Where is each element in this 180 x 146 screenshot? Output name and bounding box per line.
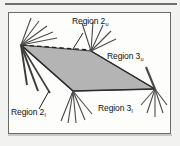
label-region-2-lower-subscript: l <box>44 112 45 118</box>
label-region-2-lower-base: Region 2 <box>11 107 44 117</box>
label-region-2-upper-subscript: u <box>105 21 108 27</box>
label-region-3-upper: Region 3u <box>107 52 144 61</box>
top-horizontal-rule <box>5 3 177 5</box>
figure-root: Region 2u Region 3u Region 3l Region 2l <box>0 0 180 146</box>
top-right-vertex-fan <box>82 22 116 51</box>
right-vertex-fan <box>141 67 167 117</box>
label-region-3-upper-subscript: u <box>140 56 143 62</box>
label-region-2-upper-base: Region 2 <box>72 16 105 26</box>
bottom-mid-vertex-fan <box>61 91 92 123</box>
label-region-3-lower: Region 3l <box>98 104 133 113</box>
label-region-3-upper-base: Region 3 <box>107 51 140 61</box>
label-region-3-lower-base: Region 3 <box>98 103 131 113</box>
figure-frame: Region 2u Region 3u Region 3l Region 2l <box>8 12 171 134</box>
label-region-2-lower: Region 2l <box>11 108 46 117</box>
leader-line-region-2-upper <box>73 33 83 49</box>
left-vertex-upper-fan <box>21 18 57 45</box>
label-region-3-lower-subscript: l <box>131 108 132 114</box>
label-region-2-upper: Region 2u <box>72 17 109 26</box>
figure-bottom-shadow <box>8 134 172 136</box>
